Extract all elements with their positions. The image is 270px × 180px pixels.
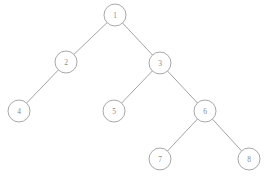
tree-node-label-4: 4 bbox=[17, 107, 21, 116]
tree-edge-3-5 bbox=[122, 71, 153, 103]
tree-node-label-5: 5 bbox=[112, 107, 116, 116]
tree-node-4[interactable]: 4 bbox=[8, 100, 30, 122]
tree-edge-1-2 bbox=[74, 23, 107, 55]
tree-node-8[interactable]: 8 bbox=[238, 148, 260, 170]
tree-node-1[interactable]: 1 bbox=[104, 4, 126, 26]
tree-node-label-2: 2 bbox=[64, 58, 68, 67]
tree-node-2[interactable]: 2 bbox=[55, 51, 77, 73]
tree-node-label-8: 8 bbox=[247, 155, 251, 164]
tree-node-label-1: 1 bbox=[113, 11, 117, 20]
tree-node-3[interactable]: 3 bbox=[149, 52, 171, 74]
tree-edge-2-4 bbox=[27, 70, 59, 103]
tree-edge-1-3 bbox=[123, 23, 153, 55]
tree-node-6[interactable]: 6 bbox=[194, 100, 216, 122]
tree-edge-6-7 bbox=[168, 119, 198, 151]
node-layer: 12345678 bbox=[8, 4, 260, 170]
tree-node-label-3: 3 bbox=[158, 59, 162, 68]
tree-node-5[interactable]: 5 bbox=[103, 100, 125, 122]
binary-tree-diagram: 12345678 bbox=[0, 0, 270, 180]
tree-canvas: 12345678 bbox=[0, 0, 270, 180]
tree-edge-3-6 bbox=[168, 71, 198, 103]
tree-node-7[interactable]: 7 bbox=[149, 148, 171, 170]
edge-layer bbox=[27, 23, 242, 151]
tree-edge-6-8 bbox=[212, 119, 241, 151]
tree-node-label-7: 7 bbox=[158, 155, 162, 164]
tree-node-label-6: 6 bbox=[203, 107, 207, 116]
